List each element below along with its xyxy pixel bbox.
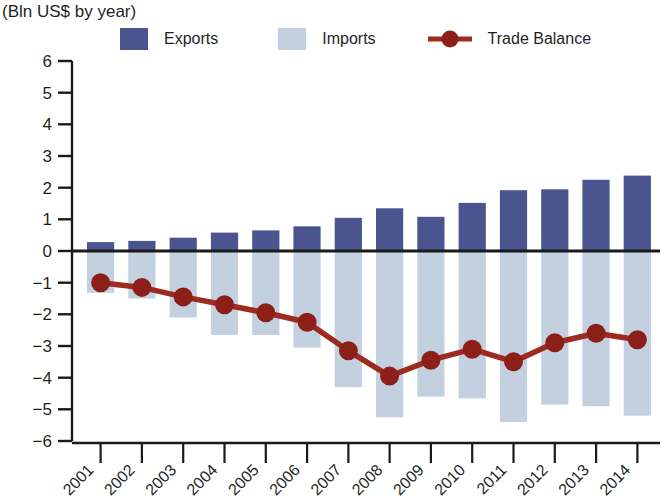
x-tick-label: 2002 (101, 461, 138, 498)
x-tick-label: 2012 (514, 461, 551, 498)
trade-balance-point (628, 330, 647, 349)
trade-balance-point (215, 295, 234, 314)
y-tick-label: 5 (43, 84, 52, 103)
bar-imports (252, 251, 279, 335)
y-tick-label: −3 (33, 337, 52, 356)
y-tick-label: −4 (33, 369, 52, 388)
bar-exports (582, 180, 609, 251)
trade-balance-point (256, 303, 275, 322)
trade-balance-point (174, 287, 193, 306)
x-tick-label: 2003 (142, 461, 179, 498)
bar-exports (541, 189, 568, 251)
bar-exports (128, 241, 155, 251)
bar-imports (417, 251, 444, 397)
y-tick-label: 0 (43, 242, 52, 261)
trade-balance-point (504, 352, 523, 371)
y-tick-label: −1 (33, 274, 52, 293)
bar-exports (170, 238, 197, 251)
trade-balance-point (132, 278, 151, 297)
trade-balance-point (587, 324, 606, 343)
x-tick-label: 2009 (390, 461, 427, 498)
bar-imports (376, 251, 403, 417)
bar-exports (624, 176, 651, 251)
trade-balance-point (463, 340, 482, 359)
bar-imports (459, 251, 486, 398)
trade-balance-point (380, 367, 399, 386)
bar-imports (500, 251, 527, 422)
trade-balance-point (339, 341, 358, 360)
x-tick-label: 2014 (596, 461, 633, 498)
bar-exports (293, 226, 320, 251)
trade-balance-point (421, 351, 440, 370)
x-tick-label: 2007 (307, 461, 344, 498)
x-tick-label: 2001 (60, 461, 97, 498)
x-tick-label: 2005 (225, 461, 262, 498)
x-tick-label: 2006 (266, 461, 303, 498)
trade-balance-point (298, 313, 317, 332)
bar-exports (417, 217, 444, 251)
trade-balance-point (545, 333, 564, 352)
bar-exports (459, 203, 486, 251)
y-tick-label: 3 (43, 147, 52, 166)
x-tick-label: 2008 (349, 461, 386, 498)
bar-imports (170, 251, 197, 318)
y-tick-label: −5 (33, 400, 52, 419)
y-tick-label: 4 (43, 115, 52, 134)
bar-exports (252, 230, 279, 251)
x-tick-label: 2004 (183, 461, 220, 498)
trade-balance-point (91, 273, 110, 292)
bar-imports (541, 251, 568, 405)
bar-exports (376, 208, 403, 251)
bar-imports (335, 251, 362, 387)
chart-svg: 6543210−1−2−3−4−5−6200120022003200420052… (0, 0, 666, 504)
bar-imports (293, 251, 320, 348)
bar-imports (211, 251, 238, 335)
y-tick-label: −2 (33, 305, 52, 324)
trade-balance-chart: (Bln US$ by year) Exports Imports Trade … (0, 0, 666, 504)
x-tick-label: 2011 (473, 461, 509, 497)
bar-exports (500, 190, 527, 251)
x-tick-label: 2010 (431, 461, 468, 498)
x-tick-label: 2013 (555, 461, 592, 498)
y-tick-label: 2 (43, 179, 52, 198)
y-tick-label: 6 (43, 52, 52, 71)
y-tick-label: −6 (33, 432, 52, 451)
bar-exports (211, 233, 238, 251)
y-tick-label: 1 (43, 210, 52, 229)
bar-exports (335, 218, 362, 251)
plot-area: 6543210−1−2−3−4−5−6200120022003200420052… (0, 0, 666, 504)
